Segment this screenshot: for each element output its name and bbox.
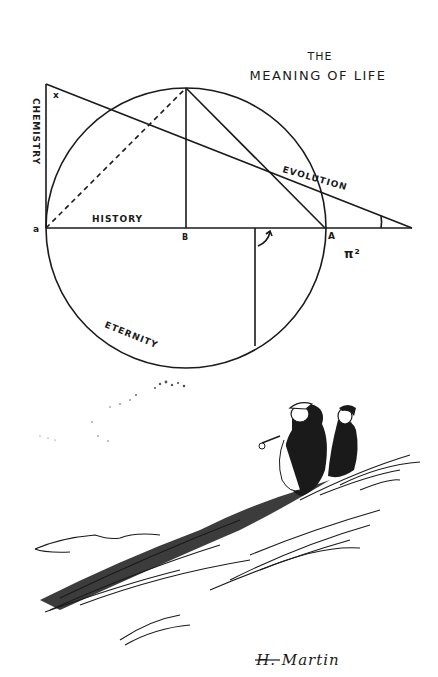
man-back xyxy=(328,405,358,477)
label-chemistry: CHEMISTRY xyxy=(31,98,41,165)
man-front xyxy=(259,403,327,496)
cartoon-illustration: THE MEANING OF LIFE CHEMISTRY HISTORY EV… xyxy=(0,0,438,677)
point-x: x xyxy=(53,90,60,100)
two-men xyxy=(259,403,358,496)
label-history: HISTORY xyxy=(92,214,143,224)
label-eternity: ETERNITY xyxy=(103,320,160,351)
sky-stipple xyxy=(39,381,185,442)
distant-hill xyxy=(35,534,160,549)
pipe xyxy=(262,436,280,443)
dashed-line xyxy=(46,88,186,228)
signature: H. Martin xyxy=(255,651,340,669)
geometry-diagram xyxy=(46,84,412,368)
chord-line xyxy=(186,88,325,228)
label-evolution: EVOLUTION xyxy=(281,164,348,192)
evolution-line xyxy=(46,84,412,228)
point-a: a xyxy=(33,224,40,234)
angle-arrow xyxy=(258,232,270,246)
point-A: A xyxy=(328,231,336,241)
title-line-1: THE xyxy=(307,50,333,63)
diagram-labels: CHEMISTRY HISTORY EVOLUTION ETERNITY π² … xyxy=(31,90,361,350)
dark-grass xyxy=(40,480,330,610)
point-b: B xyxy=(182,233,189,242)
title-line-2: MEANING OF LIFE xyxy=(250,68,387,83)
hillside xyxy=(35,455,420,645)
title: THE MEANING OF LIFE xyxy=(250,50,387,83)
cartoon-canvas: THE MEANING OF LIFE CHEMISTRY HISTORY EV… xyxy=(0,0,438,677)
angle-arc xyxy=(381,216,382,228)
label-pi-squared: π² xyxy=(344,247,361,261)
